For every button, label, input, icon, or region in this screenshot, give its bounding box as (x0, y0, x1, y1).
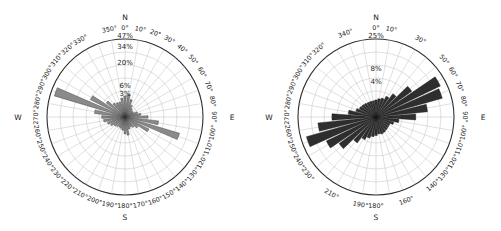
degree-label-60: 60° (196, 66, 209, 80)
degree-label-90: 90° (210, 111, 218, 122)
degree-label-260: 260° (283, 124, 294, 141)
degree-label-40: 40° (175, 42, 189, 55)
cardinal-W: W (265, 113, 273, 122)
degree-label-30: 30° (414, 34, 428, 47)
degree-label-250: 250° (35, 139, 48, 156)
wind-rose-right-panel: 0°10°30°50°60°70°80°90°100°110°120°130°1… (251, 0, 501, 231)
degree-label-60: 60° (447, 66, 460, 80)
degree-label-160: 160° (147, 194, 164, 207)
degree-label-30: 30° (163, 34, 177, 47)
wind-rose-right-svg: 0°10°30°50°60°70°80°90°100°110°120°130°1… (251, 0, 501, 231)
cardinal-S: S (123, 213, 128, 222)
degree-label-330: 330° (72, 33, 89, 48)
degree-label-70: 70° (454, 80, 465, 93)
degree-label-190: 190° (101, 199, 118, 210)
wind-rose-left-svg: 0°10°20°30°40°50°60°70°80°90°100°110°120… (0, 0, 250, 231)
degree-label-50: 50° (186, 53, 199, 67)
degree-label-80: 80° (208, 95, 218, 108)
degree-label-100: 100° (207, 124, 218, 141)
degree-label-10: 10° (134, 24, 147, 34)
degree-label-80: 80° (459, 95, 469, 108)
degree-label-70: 70° (203, 80, 214, 93)
cardinal-S: S (374, 213, 379, 222)
degree-label-180: 180° (368, 202, 383, 210)
ring-label-47: 47% (117, 32, 133, 40)
wind-rose-left-panel: 0°10°20°30°40°50°60°70°80°90°100°110°120… (0, 0, 250, 231)
degree-label-190: 190° (352, 199, 369, 210)
degree-label-270: 270° (283, 109, 291, 124)
degree-label-260: 260° (32, 124, 43, 141)
degree-label-110: 110° (453, 139, 466, 156)
degree-label-90: 90° (461, 111, 469, 122)
degree-label-50: 50° (437, 53, 450, 67)
degree-label-160: 160° (398, 194, 415, 207)
cardinal-N: N (122, 13, 128, 22)
degree-label-180: 180° (117, 202, 132, 210)
ring-label-20: 20% (117, 59, 133, 67)
cardinal-N: N (373, 13, 379, 22)
ring-label-25: 25% (368, 32, 384, 40)
degree-label-10: 10° (385, 24, 398, 34)
degree-label-320: 320° (310, 41, 327, 57)
degree-label-340: 340° (337, 27, 354, 40)
wind-rose-figure: 0°10°20°30°40°50°60°70°80°90°100°110°120… (0, 0, 501, 231)
ring-label-6: 6% (119, 82, 130, 90)
cardinal-E: E (230, 113, 235, 122)
degree-label-280: 280° (32, 93, 43, 110)
ring-label-34: 34% (117, 43, 133, 51)
ring-label-3: 3% (119, 90, 130, 98)
degree-label-280: 280° (283, 93, 294, 110)
degree-label-110: 110° (202, 139, 215, 156)
degree-label-100: 100° (458, 124, 469, 141)
degree-label-170: 170° (132, 199, 149, 210)
degree-label-270: 270° (32, 109, 40, 124)
ring-label-4: 4% (370, 78, 381, 86)
ring-label-8: 8% (370, 65, 381, 73)
degree-label-20: 20° (149, 28, 162, 39)
cardinal-W: W (14, 113, 22, 122)
degree-label-350: 350° (101, 24, 118, 35)
degree-label-200: 200° (86, 194, 103, 207)
degree-label-210: 210° (323, 187, 340, 202)
degree-label-250: 250° (286, 139, 299, 156)
cardinal-E: E (481, 113, 486, 122)
